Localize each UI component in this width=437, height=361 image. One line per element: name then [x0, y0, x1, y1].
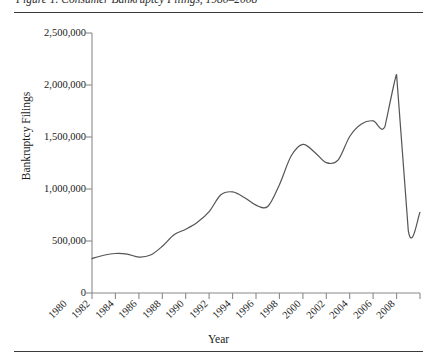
x-tick-labels: 1980 1982 1984 1986 1988 1990 1992 1994 …	[0, 0, 437, 361]
x-tick-label: 1998	[257, 298, 280, 321]
x-tick-label: 1988	[140, 298, 163, 321]
x-tick-label: 1994	[210, 298, 233, 321]
x-tick-label: 1984	[93, 298, 116, 321]
x-tick-label: 2002	[304, 298, 327, 321]
figure-container: Figure 1. Consumer Bankruptcy Filings, 1…	[0, 0, 437, 361]
x-tick-label: 1990	[163, 298, 186, 321]
x-tick-label: 1980	[46, 298, 69, 321]
bottom-rule	[14, 351, 423, 352]
x-tick-label: 2000	[280, 298, 303, 321]
x-tick-label: 1996	[234, 298, 257, 321]
x-tick-label: 1992	[187, 298, 210, 321]
x-tick-label: 2008	[374, 298, 397, 321]
x-tick-label: 1982	[70, 298, 93, 321]
x-tick-label: 2006	[351, 298, 374, 321]
x-axis-title: Year	[0, 333, 437, 345]
x-tick-label: 1986	[116, 298, 139, 321]
x-tick-label: 2004	[327, 298, 350, 321]
